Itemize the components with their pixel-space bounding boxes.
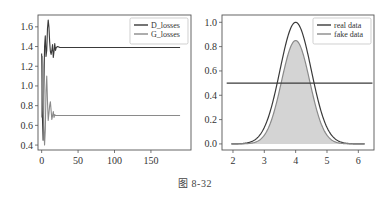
x-axis: 23456 [230,150,360,166]
distribution-chart: 234560.00.20.40.60.81.0real datafake dat… [0,0,390,199]
y-tick-label: 0.4 [205,90,218,101]
x-tick-label: 6 [356,155,361,166]
y-tick-label: 0.0 [205,138,218,149]
x-tick-label: 2 [230,155,235,166]
legend: real datafake data [313,18,371,44]
y-tick-label: 0.8 [205,41,218,52]
y-tick-label: 0.6 [205,65,218,76]
y-axis: 0.00.20.40.60.81.0 [205,17,223,150]
x-tick-label: 3 [262,155,267,166]
fake-data-fill [231,41,364,144]
y-tick-label: 0.2 [205,114,218,125]
figure: 0501001500.40.60.81.01.21.41.6D_lossesG_… [0,0,390,199]
x-tick-label: 5 [324,155,329,166]
legend-label: real data [334,21,362,30]
legend-label: fake data [334,30,364,39]
y-tick-label: 1.0 [205,17,218,28]
figure-caption: 图 8-32 [0,175,390,190]
x-tick-label: 4 [293,155,298,166]
distribution-plot: 234560.00.20.40.60.81.0real datafake dat… [205,15,375,166]
